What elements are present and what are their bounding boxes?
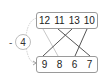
bottom-cell-3: 6	[72, 60, 78, 70]
bottom-cell-4: 7	[87, 60, 93, 70]
top-cell-4: 10	[84, 16, 95, 26]
top-row-box: 12 11 13 10	[36, 12, 98, 29]
node-circle: 4	[15, 34, 31, 50]
bottom-row-box: 9 8 6 7	[36, 56, 98, 73]
bottom-cell-2: 8	[57, 60, 63, 70]
top-cell-1: 12	[39, 16, 50, 26]
top-cell-2: 11	[54, 16, 64, 26]
line-12-to-8	[43, 29, 58, 56]
node-value: 4	[20, 37, 26, 48]
minus-operator: -	[9, 38, 12, 48]
line-13-to-9	[43, 29, 72, 56]
top-cell-3: 13	[69, 16, 80, 26]
bottom-cell-1: 9	[42, 60, 48, 70]
